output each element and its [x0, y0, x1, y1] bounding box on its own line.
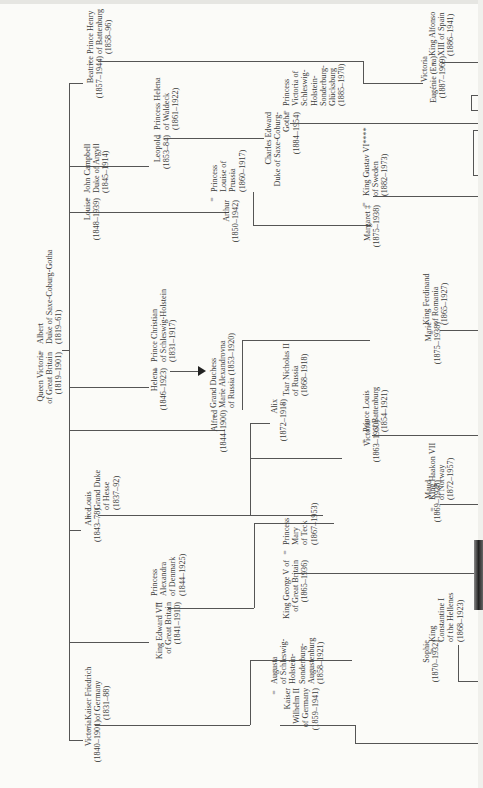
marriage-symbol: =	[36, 350, 45, 355]
title-line-3: Holstein-	[310, 32, 319, 106]
stub-alfred	[69, 430, 225, 431]
victoria-pr-descent-v	[250, 660, 251, 725]
dates-line: (1861–1922)	[171, 58, 180, 130]
title-line-2: of the Hellenes	[446, 580, 455, 642]
person-albert: Albert Duke of Saxe-Coburg-Gotha (1819–6…	[36, 234, 64, 344]
edward-descent-v	[254, 523, 255, 608]
person-king-gustav: King Gustav VI**** of Sweden (1882–1973)	[362, 120, 390, 196]
title-line: of Battenburg	[371, 372, 380, 432]
dates-line: (1887–1969)	[438, 56, 447, 112]
person-tsar-nicholas: Tsar Nicholas II of Russia (1868–1918)	[282, 330, 310, 396]
marriage-symbol: =	[360, 202, 369, 207]
title-line: Alexandra	[159, 546, 168, 596]
title-line-2: of Denmark	[168, 546, 177, 596]
alice-descent-v	[250, 423, 251, 515]
marriage-symbol: =	[270, 690, 279, 695]
title-line: of Russia	[291, 330, 300, 396]
dates-line: (1846–1923)	[159, 368, 168, 418]
dates-line: (1841–1910)	[173, 602, 182, 668]
marriage-symbol: =	[360, 439, 369, 444]
title-line-2: of Hesse	[102, 462, 111, 510]
beatrice-descent-v	[363, 61, 364, 83]
dates-line: (1868–1918)	[300, 330, 309, 396]
person-leopold: Leopold (1853–84)	[153, 135, 171, 180]
person-kaiser-friedrich: Kaiser Friedrich of Germany (1831–88)	[84, 648, 112, 720]
stub-beatrice	[69, 83, 83, 84]
marriage-symbol: =	[210, 414, 219, 419]
dates-line: (1854–1921)	[380, 372, 389, 432]
edward-descent	[168, 608, 254, 609]
title-line-4: Augustenburg	[307, 614, 316, 684]
name-line: Kaiser Friedrich	[84, 648, 93, 720]
alice-to-alix	[250, 423, 270, 424]
name-line: Grand Duchess	[209, 308, 218, 408]
dates-line: (1885–1970)	[337, 32, 346, 106]
title-line: of Germany	[93, 648, 102, 720]
alice-to-victoria-h	[250, 458, 342, 459]
dates-line: (1868–1923)	[456, 580, 465, 642]
gustav-box-v	[473, 130, 474, 175]
title-line-2: Holstein-	[288, 614, 297, 684]
title-line: Marie Alexandrovna	[218, 308, 227, 408]
name-line: Charles Edward	[264, 112, 273, 190]
person-king-ferdinand: King Ferdinand of Romania (1865–1927)	[422, 259, 450, 325]
title-line: Constantine I	[437, 580, 446, 642]
alfred-descent-v	[242, 340, 243, 410]
page-gutter	[478, 0, 483, 788]
marriage-symbol: =	[84, 727, 93, 732]
spine-line	[69, 83, 70, 643]
person-maria-alexandrovna: Grand Duchess Marie Alexandrovna of Russ…	[209, 308, 237, 408]
name-line: Alix	[270, 399, 279, 445]
wilhelm-descent-h2	[355, 743, 483, 744]
name-line: Princess	[282, 495, 291, 545]
title-line-2: of Germany	[301, 688, 310, 748]
name-line: Queen Victoria	[36, 352, 45, 418]
marriage-symbol: =	[429, 61, 438, 66]
dates-line: (1850–1942)	[231, 200, 240, 250]
marriage-symbol: =	[281, 550, 290, 555]
person-helena-waldeck: Princess Helena of Waldeck (1861–1922)	[153, 58, 181, 130]
dates-line: (1819–1901)	[54, 352, 63, 418]
victoria-pr-descent	[95, 725, 250, 726]
person-kaiser-wilhelm: Kaiser Wilhelm II of Germany (1859–1941)	[283, 688, 320, 748]
name-line: Helena	[150, 368, 159, 418]
dates-line: of Russia (1853–1920)	[227, 308, 236, 408]
maud-descent	[440, 504, 483, 505]
title-line: of Waldeck	[162, 58, 171, 130]
dates-line: (1831–1917)	[168, 270, 177, 362]
binding-shadow	[474, 540, 483, 610]
name-line: Augusta	[270, 614, 279, 684]
name-line: King Gustav VI****	[362, 120, 371, 196]
marriage-symbol: =	[152, 367, 161, 372]
marriage-symbol: =	[153, 602, 162, 607]
marriage-symbol: =	[428, 507, 437, 512]
marriage-symbol: =	[86, 60, 95, 65]
dates-line: (1875–1938)	[372, 205, 381, 255]
dates-line: (1840–1901)	[93, 720, 102, 770]
name-line: Albert	[36, 234, 45, 344]
dates-line: (1819–61)	[54, 234, 63, 344]
dates-line: (1848–1939)	[92, 198, 101, 244]
name-line: Arthur	[222, 200, 231, 250]
wilhelm-descent-v	[355, 725, 356, 743]
wilhelm-descent	[280, 725, 355, 726]
title-line-2: of Teck	[300, 495, 309, 545]
title-line: Wilhelm II	[292, 688, 301, 748]
title-line: of Sweden	[371, 120, 380, 196]
book-page: Queen Victoria of Great Britain (1819–19…	[0, 0, 483, 788]
title-line: of Romania	[431, 259, 440, 325]
name-line: John Campbell	[83, 129, 92, 193]
person-louise-prussia: Princess Louise of Prussia (1860–1917)	[210, 148, 247, 192]
person-king-haakon: King Haakon VII of Norway (1872–1957)	[428, 434, 456, 500]
dates-line: (1882–1973)	[380, 120, 389, 196]
name-line: King Ferdinand	[422, 259, 431, 325]
name-line: Tsar Nicholas II	[282, 330, 291, 396]
person-alexandra: Princess Alexandra of Denmark (1844–1925…	[150, 546, 187, 596]
pointer-line	[170, 371, 198, 372]
person-king-constantine: King Constantine I of the Hellenes (1868…	[428, 580, 465, 642]
dates-line: (1865–1927)	[440, 259, 449, 325]
name-line: Margaret ‡	[363, 205, 372, 255]
title-line: of Norway	[437, 434, 446, 500]
name-line: Leopold	[153, 135, 162, 180]
dates-line: (1845–1914)	[101, 129, 110, 193]
